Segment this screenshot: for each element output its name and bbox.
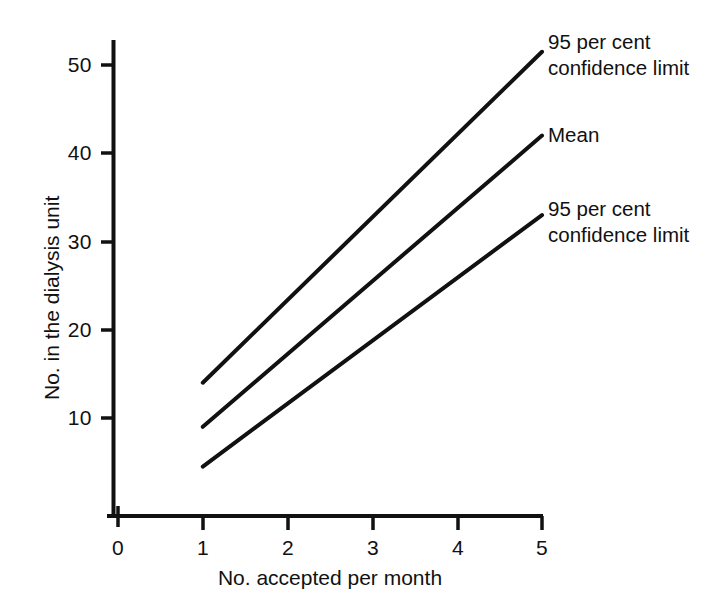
annotation-mean: Mean (548, 122, 599, 148)
annotation-lower-confidence-limit: 95 per cent confidence limit (548, 196, 689, 248)
annotation-upper-confidence-limit: 95 per cent confidence limit (548, 29, 689, 81)
x-tick-label-5: 5 (536, 536, 548, 560)
y-tick-label-50: 50 (50, 53, 92, 77)
y-tick-label-40: 40 (50, 141, 92, 165)
series-line-lower (203, 215, 542, 467)
chart-plot-area (0, 0, 727, 616)
series-line-middle (203, 136, 542, 427)
x-tick-label-4: 4 (452, 536, 464, 560)
x-tick-label-1: 1 (197, 536, 209, 560)
x-axis-title: No. accepted per month (218, 566, 442, 590)
series-line-upper (203, 52, 542, 383)
y-tick-label-10: 10 (50, 406, 92, 430)
series-lines (203, 52, 542, 467)
x-tick-label-3: 3 (367, 536, 379, 560)
y-axis-title: No. in the dialysis unit (40, 196, 64, 400)
chart-figure: 50 40 30 20 10 0 1 2 3 4 5 No. accepted … (0, 0, 727, 616)
x-tick-label-0: 0 (112, 536, 124, 560)
x-tick-label-2: 2 (282, 536, 294, 560)
